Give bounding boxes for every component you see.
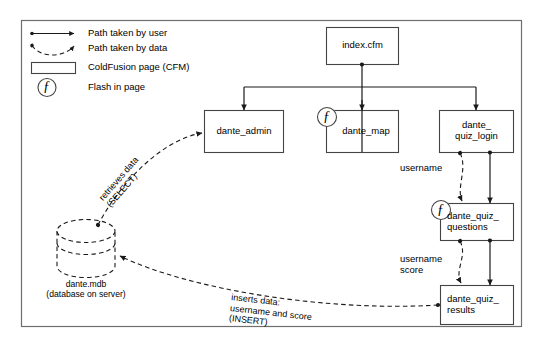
legend-rectangle-icon <box>32 63 76 74</box>
legend-label-user-path: Path taken by user <box>88 28 167 39</box>
legend-label-flash: Flash in page <box>88 82 145 93</box>
diagram-canvas: Path taken by user Path taken by data Co… <box>0 0 539 348</box>
legend-dashed-arrow-icon <box>32 46 74 55</box>
node-label-dante-admin: dante_admin <box>205 126 283 137</box>
edge-login-to-questions-data <box>460 153 463 201</box>
edge-label-username: username <box>400 163 442 174</box>
edge-label-username-score: username score <box>400 254 442 275</box>
flash-f-icon-dante-quiz-questions: ƒ <box>437 202 444 218</box>
flash-f-icon-dante-map: ƒ <box>323 109 330 125</box>
edge-questions-to-results-data <box>459 241 463 283</box>
node-label-dante-quiz-login: dante_ quiz_login <box>440 120 513 141</box>
node-label-dante-quiz-questions: dante_quiz_ questions <box>447 211 515 232</box>
node-label-index: index.cfm <box>326 40 399 51</box>
legend-label-cfm-page: ColdFusion page (CFM) <box>88 62 189 73</box>
legend-flash-f-icon: ƒ <box>43 79 50 95</box>
node-label-dante-map: dante_map <box>333 126 399 137</box>
database-label-subtitle: (database on server) <box>26 290 146 300</box>
node-label-dante-quiz-results: dante_quiz_ results <box>447 294 515 315</box>
database-cylinder-dante-mdb[interactable] <box>57 220 115 278</box>
legend-label-data-path: Path taken by data <box>88 43 167 54</box>
